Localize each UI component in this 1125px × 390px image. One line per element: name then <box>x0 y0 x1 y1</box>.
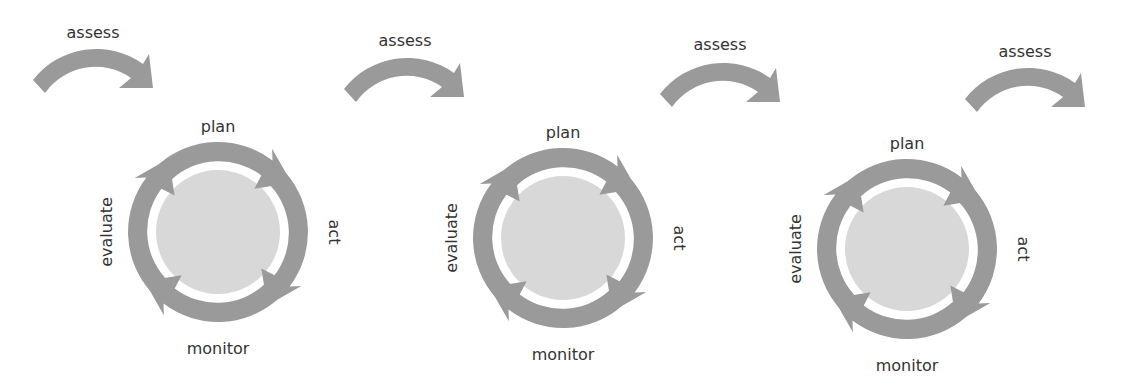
monitor-label: monitor <box>532 345 595 364</box>
cycle-hub <box>501 176 625 300</box>
plan-label: plan <box>201 117 236 136</box>
plan-label: plan <box>890 134 925 153</box>
curved-arrow-icon <box>344 58 464 102</box>
evaluate-label: evaluate <box>97 197 116 267</box>
curved-arrow-icon <box>33 49 153 93</box>
assess-arrows: assess assess assess assess <box>33 23 1085 112</box>
plan-label: plan <box>546 123 581 142</box>
monitor-label: monitor <box>876 356 939 375</box>
assess-arrow-3 <box>660 63 780 107</box>
assess-arrow-1 <box>33 49 153 93</box>
assess-arrow-2 <box>344 58 464 102</box>
monitor-label: monitor <box>187 339 250 358</box>
cycle-3: plan act monitor evaluate <box>786 134 1033 375</box>
assess-arrow-4 <box>965 68 1085 112</box>
cycle-hub <box>156 170 280 294</box>
assess-label-3: assess <box>694 35 747 54</box>
assess-label-1: assess <box>67 23 120 42</box>
act-label: act <box>1014 237 1033 262</box>
act-label: act <box>670 226 689 251</box>
cycle-hub <box>845 187 969 311</box>
evaluate-label: evaluate <box>786 214 805 284</box>
cycle-1: plan act monitor evaluate <box>97 117 344 358</box>
evaluate-label: evaluate <box>442 203 461 273</box>
iterative-cycle-diagram: assess assess assess assess plan act mon… <box>0 0 1125 390</box>
cycle-2: plan act monitor evaluate <box>442 123 689 364</box>
act-label: act <box>325 220 344 245</box>
assess-label-2: assess <box>379 31 432 50</box>
curved-arrow-icon <box>965 68 1085 112</box>
assess-label-4: assess <box>999 42 1052 61</box>
curved-arrow-icon <box>660 63 780 107</box>
